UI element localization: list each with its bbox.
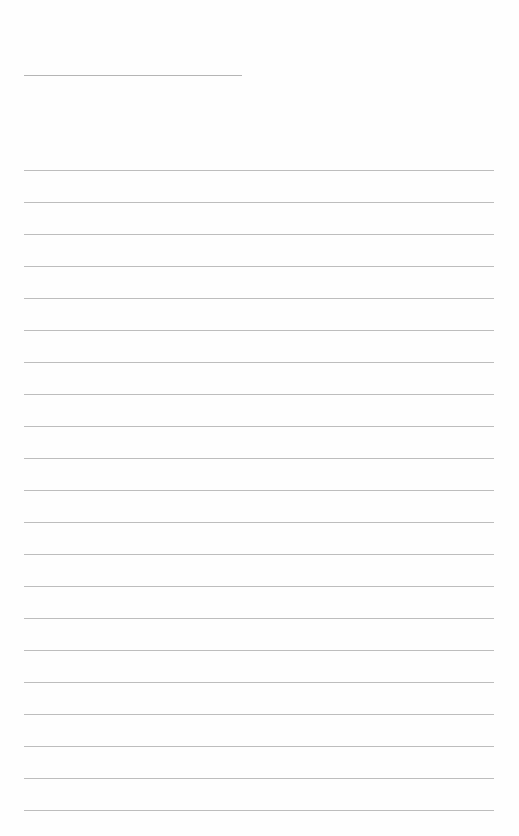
writing-line <box>24 778 494 779</box>
writing-line <box>24 202 494 203</box>
writing-line <box>24 298 494 299</box>
writing-line <box>24 330 494 331</box>
writing-line <box>24 554 494 555</box>
writing-line <box>24 586 494 587</box>
writing-line <box>24 266 494 267</box>
writing-line <box>24 234 494 235</box>
writing-line <box>24 650 494 651</box>
writing-line <box>24 682 494 683</box>
writing-line <box>24 522 494 523</box>
title-line <box>24 75 242 76</box>
writing-line <box>24 426 494 427</box>
writing-line <box>24 394 494 395</box>
writing-line <box>24 714 494 715</box>
writing-line <box>24 362 494 363</box>
lined-page <box>0 0 519 836</box>
writing-line <box>24 810 494 811</box>
writing-line <box>24 746 494 747</box>
writing-line <box>24 618 494 619</box>
writing-line <box>24 170 494 171</box>
writing-line <box>24 490 494 491</box>
writing-line <box>24 458 494 459</box>
